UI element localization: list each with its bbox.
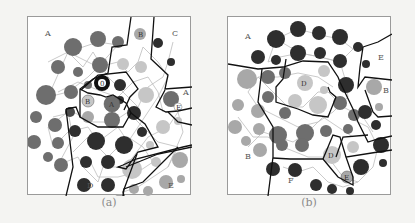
graph-a-svg: A C A D E B 0 B A E: [28, 17, 192, 196]
panel-b-graph-partition: A E B B F D D E: [227, 16, 391, 195]
nodes-a: [28, 28, 188, 196]
node-label: B: [138, 31, 143, 39]
region-label: B: [383, 86, 389, 95]
region-label: B: [245, 152, 251, 161]
node-label: D: [301, 80, 307, 88]
node-label: A: [108, 101, 115, 109]
node-label: D: [328, 152, 334, 160]
region-label: A: [244, 32, 251, 41]
node-label: E: [344, 174, 349, 182]
region-label: E: [378, 53, 384, 62]
node-label: 0: [100, 80, 104, 88]
panel-a-graph-partition: A C A D E B 0 B A E: [27, 16, 191, 195]
caption-b: (b): [227, 196, 391, 209]
region-label: D: [87, 181, 93, 190]
node-label: E: [176, 104, 181, 112]
region-label: A: [44, 29, 51, 38]
caption-a: (a): [27, 196, 191, 209]
region-label: A: [182, 88, 189, 97]
region-label: C: [172, 29, 178, 38]
node-label: B: [85, 98, 90, 106]
region-label: F: [288, 176, 294, 185]
region-label: E: [168, 181, 174, 190]
graph-b-svg: A E B B F D D E: [228, 17, 392, 196]
